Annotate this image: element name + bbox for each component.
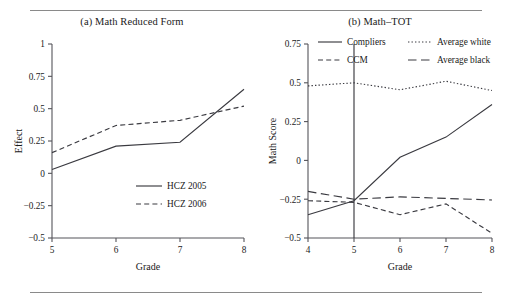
y-tick-label: −0.5: [28, 233, 45, 243]
x-axis-title: Grade: [388, 261, 413, 272]
x-tick-label: 7: [444, 245, 449, 255]
series-line: [52, 89, 244, 169]
y-tick-label: −0.25: [23, 201, 45, 211]
panel-a-title: (a) Math Reduced Form: [8, 16, 256, 27]
panel-math-reduced-form: (a) Math Reduced Form −0.5−0.2500.250.50…: [8, 16, 256, 288]
y-tick-label: −0.5: [284, 233, 301, 243]
y-tick-label: 0.5: [33, 104, 45, 114]
y-tick-label: 0.75: [285, 39, 302, 49]
x-tick-label: 4: [306, 245, 311, 255]
legend-label: Average white: [437, 37, 491, 47]
panel-b-title: (b) Math–TOT: [256, 16, 504, 27]
series-line: [308, 81, 492, 90]
x-tick-label: 8: [242, 245, 247, 255]
panel-a-plot: −0.5−0.2500.250.50.7515678GradeEffectHCZ…: [8, 34, 256, 286]
y-tick-label: 0.75: [29, 72, 46, 82]
y-tick-label: 1: [40, 39, 45, 49]
y-tick-label: 0: [296, 156, 301, 166]
x-tick-label: 5: [352, 245, 357, 255]
bottom-divider: [30, 292, 482, 293]
panel-b-plot: −0.5−0.2500.250.50.7545678GradeMath Scor…: [256, 34, 504, 286]
panel-b-svg: −0.5−0.2500.250.50.7545678GradeMath Scor…: [256, 34, 504, 286]
x-tick-label: 6: [114, 245, 119, 255]
x-tick-label: 8: [490, 245, 495, 255]
y-tick-label: 0.5: [289, 78, 301, 88]
top-divider: [30, 10, 482, 11]
legend-label: Average black: [437, 55, 491, 65]
x-tick-label: 7: [178, 245, 183, 255]
y-axis-title: Math Score: [267, 117, 278, 164]
y-tick-label: −0.25: [279, 195, 301, 205]
legend-label: HCZ 2005: [167, 181, 207, 191]
panel-math-tot: (b) Math–TOT −0.5−0.2500.250.50.7545678G…: [256, 16, 504, 288]
x-axis-title: Grade: [136, 261, 161, 272]
y-tick-label: 0: [40, 169, 45, 179]
legend-label: CCM: [347, 55, 368, 65]
x-tick-label: 6: [398, 245, 403, 255]
series-line: [308, 191, 492, 200]
panel-a-svg: −0.5−0.2500.250.50.7515678GradeEffectHCZ…: [8, 34, 256, 286]
x-tick-label: 5: [50, 245, 55, 255]
y-axis-title: Effect: [13, 129, 24, 153]
legend-label: HCZ 2006: [167, 199, 207, 209]
series-line: [308, 105, 492, 215]
y-tick-label: 0.25: [29, 136, 46, 146]
legend-label: Compliers: [347, 37, 386, 47]
series-line: [308, 201, 492, 234]
y-tick-label: 0.25: [285, 117, 302, 127]
